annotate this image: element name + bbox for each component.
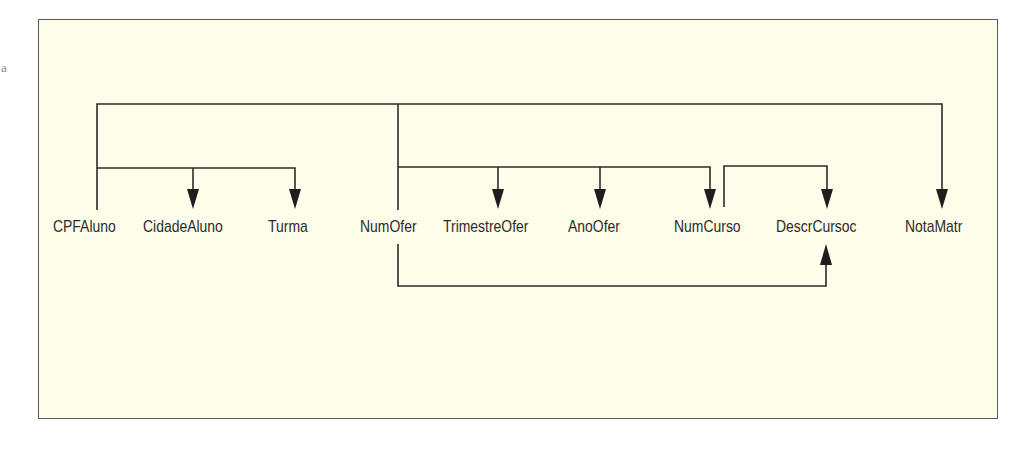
arrow-down-icon bbox=[704, 189, 716, 209]
arrow-down-icon bbox=[492, 189, 504, 209]
dep-line-bottom bbox=[398, 244, 826, 286]
attribute-cidadealuno: CidadeAluno bbox=[143, 217, 223, 237]
attribute-turma: Turma bbox=[268, 217, 308, 237]
attribute-numcurso: NumCurso bbox=[674, 217, 741, 237]
arrow-down-icon bbox=[187, 189, 199, 209]
dep-line-notamatr bbox=[97, 104, 942, 210]
arrow-down-icon bbox=[289, 189, 301, 209]
attribute-cpfaluno: CPFAluno bbox=[53, 217, 116, 237]
attribute-notamatr: NotaMatr bbox=[905, 217, 962, 237]
dep-line-numofer bbox=[398, 167, 710, 190]
arrow-down-icon bbox=[821, 189, 833, 209]
attribute-numofer: NumOfer bbox=[360, 217, 417, 237]
attribute-trimestreofer: TrimestreOfer bbox=[443, 217, 528, 237]
dep-line-cpf bbox=[97, 168, 295, 190]
attribute-anoofer: AnoOfer bbox=[568, 217, 620, 237]
arrow-down-icon bbox=[594, 189, 606, 209]
dep-line-numcurso bbox=[724, 166, 827, 207]
attribute-descrcursoc: DescrCursoc bbox=[776, 217, 857, 237]
arrow-down-icon bbox=[936, 189, 948, 209]
arrow-up-icon bbox=[820, 244, 832, 265]
